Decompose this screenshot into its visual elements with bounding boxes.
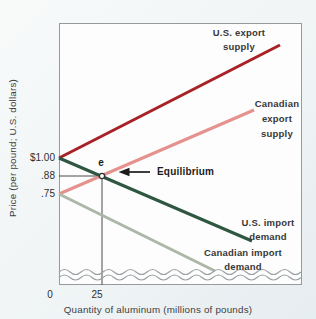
y-tick-75: .75 [15, 188, 55, 200]
us-export-supply-label: U.S. export supply [196, 26, 282, 54]
canadian-export-supply-label: Canadian export supply [248, 96, 306, 141]
us-export-supply-line [59, 45, 280, 158]
trade-equilibrium-figure: U.S. export supply Canadian export suppl… [0, 0, 316, 319]
axis-break-wave-bottom [59, 275, 301, 280]
x-tick-25: 25 [88, 289, 106, 301]
y-tick-1-00: $1.00 [15, 152, 55, 164]
equilibrium-point-label: e [95, 157, 107, 168]
us-import-demand-line [59, 158, 252, 241]
canadian-export-supply-line [59, 110, 254, 194]
canadian-import-demand-line [59, 194, 215, 271]
x-tick-0: 0 [44, 289, 56, 301]
equilibrium-point-marker [99, 173, 104, 178]
x-axis-title: Quantity of aluminum (millions of pounds… [40, 304, 276, 315]
equilibrium-label: Equilibrium [157, 166, 214, 177]
canadian-import-demand-label: Canadian import demand [193, 246, 293, 274]
y-axis-title: Price (per pound; U.S. dollars) [7, 38, 21, 258]
y-tick-88: .88 [15, 170, 55, 182]
us-import-demand-label: U.S. import demand [234, 216, 302, 244]
